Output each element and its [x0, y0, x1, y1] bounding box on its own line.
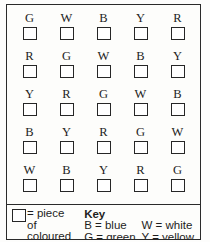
legend-piece-text: = piece of coloured bead: [26, 208, 71, 239]
legend-piece-description: = piece of coloured bead: [10, 208, 84, 239]
bead-checkbox[interactable]: [134, 103, 148, 116]
grid-cell[interactable]: G: [13, 11, 46, 40]
grid-cell[interactable]: Y: [161, 49, 194, 78]
key-entry-blue: B = blue: [84, 220, 141, 232]
bead-checkbox[interactable]: [134, 65, 148, 78]
grid-cell[interactable]: G: [124, 125, 157, 154]
grid-row: B Y R G W: [11, 125, 196, 163]
bead-checkbox[interactable]: [23, 27, 37, 40]
bead-checkbox[interactable]: [97, 141, 111, 154]
bead-checkbox[interactable]: [60, 65, 74, 78]
key-column-primary: Key B = blue G = green R = red: [84, 208, 141, 239]
bead-checkbox[interactable]: [171, 179, 185, 192]
bead-checkbox[interactable]: [23, 141, 37, 154]
worksheet-frame: G W B Y R: [6, 4, 201, 240]
bead-checkbox[interactable]: [97, 103, 111, 116]
cell-letter: W: [172, 125, 184, 139]
cell-letter: Y: [25, 87, 34, 101]
cell-letter: W: [98, 49, 110, 63]
cell-letter: B: [25, 125, 34, 139]
grid-cell[interactable]: B: [13, 125, 46, 154]
cell-letter: G: [173, 163, 182, 177]
cell-letter: G: [62, 49, 71, 63]
key-entry-yellow: Y = yellow: [142, 232, 198, 240]
bead-checkbox[interactable]: [171, 141, 185, 154]
grid-cell[interactable]: R: [124, 163, 157, 192]
bead-checkbox[interactable]: [60, 141, 74, 154]
grid-cell[interactable]: W: [50, 11, 83, 40]
grid-cell[interactable]: R: [50, 87, 83, 116]
grid-cell[interactable]: G: [161, 163, 194, 192]
bead-checkbox[interactable]: [23, 179, 37, 192]
grid-cell[interactable]: W: [124, 87, 157, 116]
grid-cell[interactable]: B: [50, 163, 83, 192]
cell-letter: Y: [62, 125, 71, 139]
bead-checkbox[interactable]: [171, 103, 185, 116]
cell-letter: R: [99, 125, 108, 139]
bead-checkbox[interactable]: [171, 65, 185, 78]
bead-checkbox[interactable]: [60, 27, 74, 40]
grid-cell[interactable]: Y: [13, 87, 46, 116]
bead-checkbox[interactable]: [171, 27, 185, 40]
bead-checkbox[interactable]: [23, 103, 37, 116]
worksheet-page: G W B Y R: [0, 0, 210, 242]
bead-checkbox[interactable]: [134, 27, 148, 40]
grid-cell[interactable]: B: [161, 87, 194, 116]
cell-letter: B: [99, 11, 108, 25]
bead-checkbox[interactable]: [23, 65, 37, 78]
grid-cell[interactable]: B: [87, 11, 120, 40]
bead-checkbox[interactable]: [97, 27, 111, 40]
bead-grid: G W B Y R: [7, 5, 200, 205]
grid-row: W B Y R G: [11, 163, 196, 201]
cell-letter: W: [24, 163, 36, 177]
grid-cell[interactable]: W: [161, 125, 194, 154]
legend-piece-line-1: = piece: [27, 208, 71, 220]
grid-cell[interactable]: R: [13, 49, 46, 78]
grid-row: Y R G W B: [11, 87, 196, 125]
cell-letter: G: [25, 11, 34, 25]
cell-letter: W: [61, 11, 73, 25]
grid-cell[interactable]: B: [124, 49, 157, 78]
grid-cell[interactable]: Y: [50, 125, 83, 154]
key-column-secondary: W = white Y = yellow: [142, 208, 198, 239]
key-legend: = piece of coloured bead Key B = blue G …: [7, 205, 200, 239]
grid-row: G W B Y R: [11, 11, 196, 49]
cell-letter: Y: [173, 49, 182, 63]
cell-letter: B: [173, 87, 182, 101]
grid-cell[interactable]: R: [161, 11, 194, 40]
key-entry-green: G = green: [84, 232, 141, 240]
bead-checkbox[interactable]: [134, 179, 148, 192]
bead-checkbox[interactable]: [60, 179, 74, 192]
legend-piece-line-3: coloured: [27, 231, 71, 239]
grid-cell[interactable]: W: [13, 163, 46, 192]
cell-letter: G: [99, 87, 108, 101]
grid-cell[interactable]: Y: [87, 163, 120, 192]
bead-checkbox[interactable]: [134, 141, 148, 154]
cell-letter: B: [62, 163, 71, 177]
grid-cell[interactable]: G: [50, 49, 83, 78]
cell-letter: G: [136, 125, 145, 139]
cell-letter: R: [173, 11, 182, 25]
grid-cell[interactable]: Y: [124, 11, 157, 40]
legend-swatch-icon: [12, 209, 26, 222]
cell-letter: B: [136, 49, 145, 63]
bead-checkbox[interactable]: [97, 179, 111, 192]
cell-letter: Y: [99, 163, 108, 177]
key-entry-white: W = white: [142, 220, 198, 232]
grid-row: R G W B Y: [11, 49, 196, 87]
grid-cell[interactable]: G: [87, 87, 120, 116]
cell-letter: R: [25, 49, 34, 63]
grid-cell[interactable]: W: [87, 49, 120, 78]
cell-letter: R: [136, 163, 145, 177]
grid-cell[interactable]: R: [87, 125, 120, 154]
bead-checkbox[interactable]: [97, 65, 111, 78]
cell-letter: Y: [136, 11, 145, 25]
cell-letter: R: [62, 87, 71, 101]
cell-letter: W: [135, 87, 147, 101]
bead-checkbox[interactable]: [60, 103, 74, 116]
